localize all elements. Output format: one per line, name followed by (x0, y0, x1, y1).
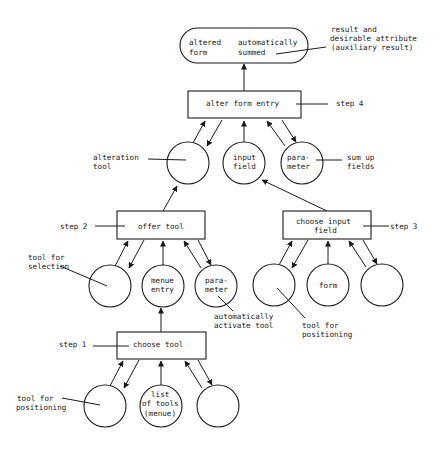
task-decomposition-diagram: altered form automatically summed result… (0, 0, 446, 452)
alter-form-entry-label: alter form entry (206, 99, 280, 108)
step4-node: alter form entry (188, 91, 301, 118)
arrow-choose-input-to-positioning3 (292, 240, 308, 268)
arrow-parameter-to-box (267, 121, 285, 146)
result-left-line1: altered (189, 38, 221, 47)
arrow-offer-to-alteration (163, 186, 177, 211)
arrow-box-to-alteration (207, 120, 222, 146)
result-annotation-line3: (auxiliary result) (331, 43, 413, 52)
parameter-step4-line1: para- (287, 153, 310, 162)
input-field-line2: field (233, 162, 256, 171)
input-field-line1: input (233, 153, 256, 162)
tool-for-positioning1-annotation-line2: positioning (16, 403, 66, 412)
result-annotation-line2: desirable attribute (330, 34, 417, 43)
step2-node: offer tool (117, 211, 205, 239)
alteration-tool-circle (167, 142, 209, 184)
step4-label: step 4 (336, 99, 364, 108)
arrow-offer-to-selection (129, 240, 144, 268)
arrow-alteration-to-box (193, 121, 205, 143)
tool-for-selection-annotation-line2: selection (28, 262, 69, 271)
sum-up-annotation-line1: sum up (347, 153, 375, 162)
tool-for-positioning3-annotation-line1: tool for (302, 321, 339, 330)
auto-activate-annotation-line1: automatically (214, 312, 274, 321)
sum-up-annotation-line2: fields (347, 162, 374, 171)
arrow-positioning3-to-choose-input (279, 241, 292, 265)
result-annotation-line1: result and (331, 25, 377, 34)
parameter-step2-line1: para- (205, 276, 228, 285)
auto-activate-annotation-line2: activate tool (214, 321, 273, 330)
alteration-tool-annotation-line1: alteration (93, 153, 139, 162)
step3-label: step 3 (390, 222, 417, 231)
arrow-offer-to-parameter2 (198, 240, 211, 265)
menue-entry-line1: menue (151, 276, 174, 285)
list-of-tools-line1: list (151, 390, 169, 399)
choose-input-field-line2: field (314, 226, 337, 235)
tool-for-positioning-circle-step1 (84, 385, 126, 427)
arrow-parameter2-to-offer (184, 241, 201, 268)
choose-tool-label: choose tool (133, 340, 183, 349)
step3-node: choose input field (283, 211, 371, 239)
arrow-choose-input-to-empty3 (363, 240, 377, 264)
step1-label: step 1 (59, 340, 87, 349)
tool-for-positioning3-annotation-line2: positioning (302, 330, 352, 339)
arrow-box-to-parameter (282, 120, 296, 142)
choose-input-field-line1: choose input (296, 217, 351, 226)
menue-entry-line2: entry (151, 285, 174, 294)
result-left-line2: form (189, 48, 208, 57)
arrow-empty1-to-choose-tool (185, 361, 202, 388)
arrow-choose-input-to-input-field (262, 180, 327, 211)
result-annotation: result and desirable attribute (auxiliar… (330, 25, 417, 52)
tool-for-positioning1-annotation-line1: tool for (17, 394, 54, 403)
arrow-positioning1-to-choose-tool (110, 361, 123, 386)
step1-node: choose tool (117, 332, 206, 359)
offer-tool-label: offer tool (138, 222, 184, 231)
tool-for-positioning-circle-step3 (253, 264, 295, 306)
arrow-choose-tool-to-empty1 (198, 360, 212, 385)
alteration-tool-annotation-line2: tool (93, 162, 111, 171)
result-right-line1: automatically (238, 38, 298, 47)
result-node: altered form automatically summed (180, 28, 308, 63)
tool-for-selection-circle (89, 265, 131, 307)
parameter-step2-line2: meter (205, 285, 228, 294)
arrow-empty3-to-choose-input (349, 241, 366, 267)
arrow-selection-to-offer (115, 241, 128, 266)
empty-circle-step3 (361, 264, 403, 306)
tool-for-selection-annotation-line1: tool for (28, 253, 65, 262)
step2-label: step 2 (60, 222, 87, 231)
form-label: form (319, 281, 338, 290)
empty-circle-step1 (197, 385, 239, 427)
list-of-tools-line3: (menue) (144, 409, 176, 418)
result-right-line2: summed (238, 48, 265, 57)
list-of-tools-line2: of tools (142, 399, 179, 408)
parameter-step4-line2: meter (287, 162, 310, 171)
arrow-choose-tool-to-positioning1 (124, 360, 139, 388)
